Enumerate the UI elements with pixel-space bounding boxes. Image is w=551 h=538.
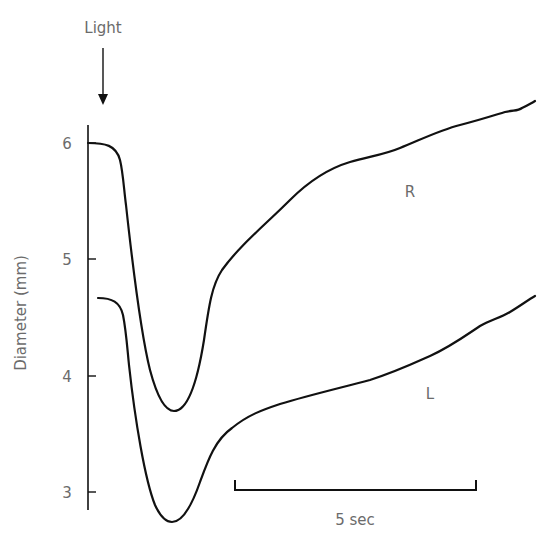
y-tick-label: 5 — [62, 251, 72, 269]
y-axis: 6 5 4 3 Diameter (mm) — [12, 125, 96, 510]
series-l-line — [98, 296, 535, 522]
y-tick-label: 6 — [62, 135, 72, 153]
light-arrow-icon — [98, 48, 108, 105]
series-r-label: R — [405, 183, 415, 201]
series-l-label: L — [426, 385, 435, 403]
scale-bar-label: 5 sec — [335, 511, 375, 529]
time-scale-bar — [235, 480, 476, 490]
pupil-diameter-chart: Light 6 5 4 3 Diameter (mm) R L 5 sec — [0, 0, 551, 538]
y-tick-label: 3 — [62, 484, 72, 502]
series-r-line — [88, 101, 535, 411]
y-tick-label: 4 — [62, 368, 72, 386]
y-axis-label: Diameter (mm) — [12, 255, 30, 371]
light-stimulus-label: Light — [84, 19, 122, 37]
